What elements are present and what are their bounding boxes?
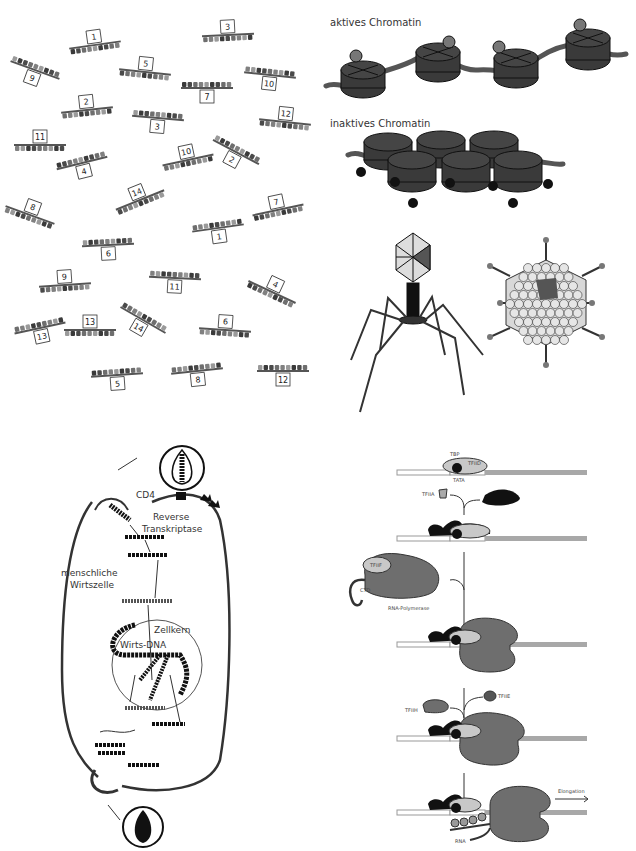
tfiih-label: TFIIH [404,707,418,713]
dna-step-2 [397,536,587,541]
host-dna-label: Wirts-DNA [120,640,167,650]
tfiia [439,489,447,498]
gene-segments-panel: 13951072312114102148716911413131465812 [0,0,318,410]
chromatin-panel: aktives Chromatin [318,0,636,220]
gene-number: 12 [280,109,291,119]
gene-segment: 11 [148,271,201,295]
elongation-arrow [555,796,588,802]
gene-segment: 9 [5,55,61,93]
hiv-lifecycle-figure: CD4 Reverse Transkriptase menschliche Wi… [40,440,300,851]
host-cell-label-2: Wirtszelle [70,580,114,590]
gene-number: 11 [169,282,180,292]
cd4-receptors [176,492,220,508]
transcription-panel: TBP TFIID TATA TFIIA TFIIF CTD RNA-Polym… [340,440,636,851]
gene-segment: 6 [199,313,252,338]
bacteriophage-icon [351,233,483,412]
gene-segments-figure: 13951072312114102148716911413131465812 [0,0,318,410]
ctd-label: CTD [360,587,371,593]
tfiie-label: TFIIE [497,693,510,699]
tbp-label: TBP [449,451,460,457]
gene-number: 6 [106,249,112,258]
viruses-figure [318,220,636,420]
tfiie [484,691,496,701]
cd4-label: CD4 [136,490,155,500]
gene-segment: 11 [14,130,66,151]
host-cell-label-1: menschliche [61,568,118,578]
gene-segment: 5 [119,54,173,80]
elongation-label: Elongation [558,788,585,795]
rna-label: RNA [455,838,466,844]
gene-segment: 10 [159,140,214,171]
gene-number: 8 [195,375,201,384]
gene-segment: 14 [113,302,169,346]
tfiif-label: TFIIF [369,562,382,568]
gene-segment: 12 [259,104,313,130]
gene-number: 12 [278,376,288,385]
gene-segment: 13 [13,317,68,348]
hiv-lifecycle-panel: CD4 Reverse Transkriptase menschliche Wi… [40,440,300,851]
integrated-dna [140,655,168,700]
gene-segment: 13 [64,315,116,336]
gene-number: 13 [85,318,95,327]
gene-segment: 7 [181,82,233,103]
rnapol-label: RNA-Polymerase [388,605,429,612]
gene-number: 10 [264,79,275,89]
adenovirus-icon [487,237,605,368]
nucleosome-active [566,19,610,70]
gene-number: 9 [62,272,68,281]
rna-polymerase [460,713,525,765]
gene-segment: 10 [243,66,297,92]
nucleosome-active [493,41,538,88]
nucleosome-active [416,36,460,82]
gene-segment: 7 [249,190,304,221]
reverse-label: Reverse [153,512,190,522]
gene-segment: 4 [246,267,302,308]
nucleosome-active [341,50,385,98]
tfiih [423,700,448,713]
gene-number: 3 [154,122,160,131]
tfiia-label: TFIIA [421,491,435,497]
gene-segment: 5 [91,367,144,392]
gene-segment: 8 [171,362,225,388]
tbp [452,463,462,473]
transcription-figure: TBP TFIID TATA TFIIA TFIIF CTD RNA-Polym… [340,440,636,851]
active-chromatin-label: aktives Chromatin [330,17,421,28]
gene-segment: 3 [201,19,254,43]
transkriptase-label: Transkriptase [141,524,203,534]
gene-number: 3 [225,22,231,31]
tfiid-label: TFIID [467,460,481,466]
gene-segment: 1 [191,218,245,246]
nucleus-label: Zellkern [154,625,190,635]
gene-segment: 12 [257,365,309,386]
dna-step-1 [397,470,587,475]
gene-segment: 2 [206,134,262,177]
gene-segment: 6 [82,238,135,262]
inactive-chromatin-label: inaktives Chromatin [330,118,430,129]
gene-segment: 9 [38,268,91,293]
tbp [452,529,462,539]
tfiib [482,489,520,505]
released-virion-icon [123,807,163,847]
gene-number: 7 [204,93,209,102]
rna-strand [100,730,135,732]
gene-number: 5 [115,379,121,388]
gene-number: 5 [143,59,149,68]
gene-segment: 4 [55,151,111,184]
arrow [450,495,480,515]
gene-number: 11 [35,133,45,142]
tata-label: TATA [452,477,465,483]
gene-segment: 3 [131,110,185,135]
rna-polymerase [460,618,518,672]
hiv-virion-icon [160,446,204,490]
viruses-panel [318,220,636,420]
gene-segment: 14 [110,176,166,215]
viral-genomes [95,745,125,753]
gene-segment: 2 [60,92,114,118]
gene-number: 6 [223,317,229,326]
gene-segment: 1 [67,27,121,55]
gene-number: 2 [83,97,89,106]
gene-segment: 8 [4,192,60,230]
chromatin-figure: aktives Chromatin [318,0,636,220]
